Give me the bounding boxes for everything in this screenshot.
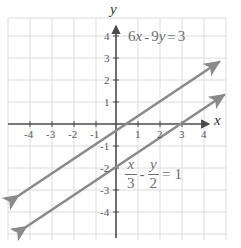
y-tick-label--1: -1 — [100, 141, 109, 152]
eq-upper-coef-x: 6 — [128, 28, 136, 44]
x-tick-label--3: -3 — [46, 129, 55, 140]
eq-upper-rhs: 3 — [178, 28, 186, 44]
y-tick-label--2: -2 — [100, 163, 109, 174]
y-tick-label-3: 3 — [104, 53, 110, 64]
x-tick-label-3: 3 — [179, 129, 185, 140]
equation-label-upper: 6x-9y=3 — [128, 29, 185, 45]
equation-label-lower: x 3 - y 2 =1 — [124, 157, 184, 192]
x-tick-label-2: 2 — [157, 129, 163, 140]
eq-lower-fraction-y-over-2: y 2 — [148, 157, 160, 192]
x-tick-label--2: -2 — [68, 129, 77, 140]
eq-lower-fraction-x-over-3: x 3 — [125, 157, 137, 192]
graph-figure: -4 -3 -2 -1 1 2 3 4 4 3 2 1 -1 -2 -3 -4 … — [0, 0, 241, 248]
y-tick-label-4: 4 — [104, 31, 110, 42]
y-tick-label--4: -4 — [100, 207, 109, 218]
eq-lower-frac1-numerator: x — [125, 157, 137, 173]
eq-lower-frac2-denominator: 2 — [148, 176, 160, 192]
eq-upper-var-x: x — [136, 28, 143, 44]
y-tick-label--3: -3 — [100, 185, 109, 196]
coordinate-plane-svg — [0, 0, 241, 248]
x-axis-label: x — [214, 113, 221, 128]
x-tick-label-1: 1 — [135, 129, 141, 140]
y-tick-label-1: 1 — [104, 97, 110, 108]
plotted-lines — [18, 62, 224, 227]
x-tick-label-4: 4 — [201, 129, 207, 140]
y-tick-label-2: 2 — [104, 75, 110, 86]
eq-upper-coef-y: 9 — [151, 28, 159, 44]
x-tick-label--4: -4 — [24, 129, 33, 140]
eq-lower-operator: - — [140, 167, 145, 182]
eq-upper-equals: = — [167, 30, 175, 45]
eq-lower-frac2-numerator: y — [148, 157, 160, 173]
eq-lower-frac1-denominator: 3 — [125, 176, 137, 192]
eq-upper-operator: - — [144, 30, 149, 45]
eq-upper-var-y: y — [159, 28, 166, 44]
x-tick-label--1: -1 — [90, 129, 99, 140]
y-axis-label: y — [110, 2, 117, 17]
eq-lower-equals: = — [162, 167, 170, 182]
eq-lower-rhs: 1 — [174, 167, 182, 182]
